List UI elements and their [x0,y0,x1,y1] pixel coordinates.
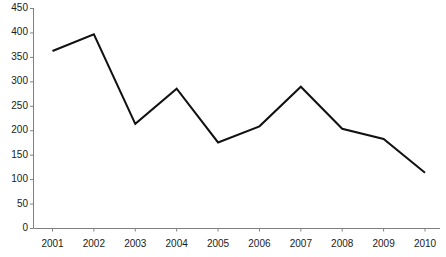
y-axis-tick-label: 300 [2,75,28,86]
axes-group [34,8,441,229]
x-axis-tick-label: 2006 [239,238,279,249]
y-axis-ticks [30,9,34,229]
y-axis-tick-label: 250 [2,100,28,111]
x-axis-tick-label: 2007 [281,238,321,249]
y-axis-tick-label: 200 [2,124,28,135]
data-series-line [53,34,426,172]
x-axis-tick-label: 2001 [33,238,73,249]
x-axis-tick-label: 2003 [115,238,155,249]
x-axis-tick-label: 2002 [74,238,114,249]
y-axis-tick-label: 450 [2,2,28,13]
x-axis-tick-label: 2010 [405,238,445,249]
x-axis-tick-label: 2008 [322,238,362,249]
y-axis-tick-label: 150 [2,149,28,160]
x-axis-tick-label: 2005 [198,238,238,249]
y-axis-tick-label: 50 [2,198,28,209]
x-axis-tick-label: 2004 [157,238,197,249]
y-axis-tick-label: 0 [2,222,28,233]
y-axis-tick-label: 100 [2,173,28,184]
x-axis-tick-label: 2009 [364,238,404,249]
y-axis-tick-label: 400 [2,26,28,37]
y-axis-tick-label: 350 [2,51,28,62]
line-chart: 050100150200250300350400450 200120022003… [0,0,446,257]
chart-plot-area [0,0,446,257]
